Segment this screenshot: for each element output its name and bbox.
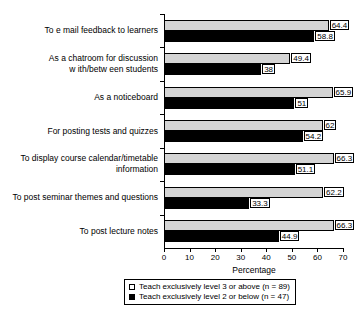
bar-value-label: 54.2	[304, 131, 324, 141]
bar-series-1	[164, 87, 333, 98]
bar-group: 64.458.8	[164, 20, 343, 42]
x-tick-label: 10	[180, 253, 200, 262]
x-tick-label: 40	[256, 253, 276, 262]
bar-value-label: 66.3	[335, 220, 355, 230]
category-label: As a chatroom for discussion w ith/betw …	[49, 53, 158, 75]
bar-group: 49.438	[164, 53, 343, 75]
x-tick	[241, 248, 242, 252]
bar-value-label: 33.3	[250, 198, 270, 208]
bar-series-2	[164, 98, 294, 109]
bar-series-1	[164, 20, 329, 31]
legend-item-series-1: Teach exclusively level 3 or above (n = …	[129, 282, 290, 292]
category-label: To e mail feedback to learners	[45, 25, 158, 36]
bar-group: 6254.2	[164, 120, 343, 142]
x-axis-title: Percentage	[164, 265, 344, 275]
bar-group: 66.351.1	[164, 153, 343, 175]
category-label: To post lecture notes	[80, 226, 158, 237]
bar-series-1	[164, 53, 290, 64]
category-label: As a noticeboard	[94, 92, 158, 103]
bar-value-label: 66.3	[335, 153, 355, 163]
x-tick	[317, 248, 318, 252]
bar-chart: To e mail feedback to learnersAs a chatr…	[0, 0, 364, 319]
plot-area: 64.458.849.43865.9516254.266.351.162.233…	[164, 14, 343, 248]
bar-series-1	[164, 153, 334, 164]
x-tick-label: 30	[231, 253, 251, 262]
bar-group: 62.233.3	[164, 187, 343, 209]
x-tick-label: 70	[333, 253, 353, 262]
x-tick	[266, 248, 267, 252]
bar-group: 66.344.9	[164, 220, 343, 242]
bar-series-2	[164, 198, 249, 209]
category-label: To display course calendar/timetable inf…	[21, 153, 159, 175]
bar-series-2	[164, 131, 303, 142]
bar-value-label: 62	[324, 120, 337, 130]
bar-series-1	[164, 120, 323, 131]
chart-legend: Teach exclusively level 3 or above (n = …	[124, 279, 296, 305]
x-tick	[190, 248, 191, 252]
bar-value-label: 51.1	[296, 164, 316, 174]
category-label: For posting tests and quizzes	[47, 126, 158, 137]
x-tick	[215, 248, 216, 252]
bar-group: 65.951	[164, 87, 343, 109]
bar-value-label: 51	[295, 98, 308, 108]
bar-series-1	[164, 187, 323, 198]
legend-label-series-1: Teach exclusively level 3 or above (n = …	[139, 282, 290, 292]
x-tick	[164, 248, 165, 252]
bar-value-label: 64.4	[330, 20, 350, 30]
bar-value-label: 65.9	[334, 87, 354, 97]
bar-value-label: 58.8	[315, 31, 335, 41]
legend-label-series-2: Teach exclusively level 2 or below (n = …	[139, 292, 289, 302]
bar-value-label: 49.4	[291, 53, 311, 63]
x-tick	[292, 248, 293, 252]
legend-swatch-icon-series-1	[129, 284, 135, 290]
bar-series-1	[164, 220, 334, 231]
x-tick-label: 50	[282, 253, 302, 262]
bar-series-2	[164, 231, 279, 242]
bar-value-label: 62.2	[324, 187, 344, 197]
x-tick-label: 60	[307, 253, 327, 262]
bar-series-2	[164, 164, 295, 175]
bar-series-2	[164, 64, 261, 75]
legend-item-series-2: Teach exclusively level 2 or below (n = …	[129, 292, 290, 302]
x-tick-label: 20	[205, 253, 225, 262]
bar-value-label: 44.9	[280, 231, 300, 241]
bar-value-label: 38	[262, 64, 275, 74]
x-tick	[343, 248, 344, 252]
x-tick-label: 0	[154, 253, 174, 262]
category-label: To post seminar themes and questions	[12, 192, 158, 203]
legend-swatch-icon-series-2	[129, 294, 135, 300]
bar-series-2	[164, 31, 314, 42]
